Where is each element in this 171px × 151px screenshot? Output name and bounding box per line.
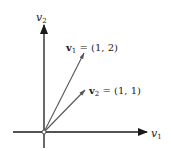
vector-diagram: v2 v1 v1 = (1, 2) v2 = (1, 1) <box>0 0 171 151</box>
vector-v1-label: v1 = (1, 2) <box>65 42 118 55</box>
vector-v2-label: v2 = (1, 1) <box>88 85 141 98</box>
y-axis-label: v2 <box>36 11 47 25</box>
vector-v1-arrow <box>44 53 84 132</box>
x-axis-label: v1 <box>151 127 162 141</box>
vector-v2-arrow <box>44 90 85 132</box>
origin-point <box>42 130 46 134</box>
